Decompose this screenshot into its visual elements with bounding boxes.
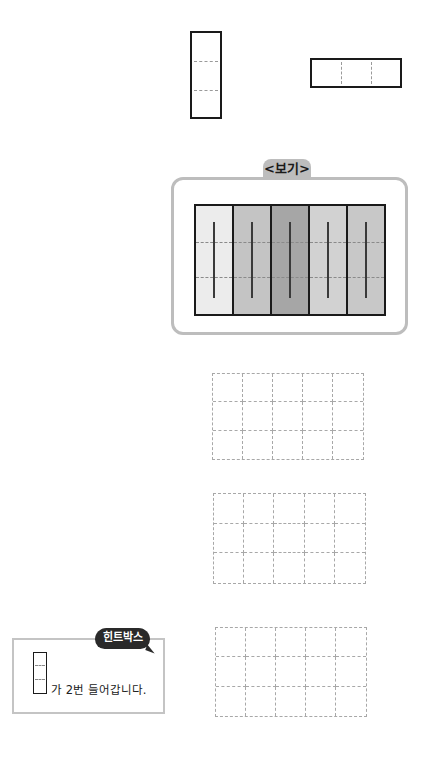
practice-grid-2[interactable] bbox=[213, 493, 366, 584]
vertical-line bbox=[365, 222, 367, 298]
hint-text: 가 2번 들어갑니다. bbox=[51, 681, 146, 697]
example-box-title: <보기> bbox=[263, 159, 311, 179]
strip-2 bbox=[234, 206, 272, 314]
hint-box: 가 2번 들어갑니다. bbox=[12, 638, 165, 714]
vertical-line bbox=[251, 222, 253, 298]
example-strips bbox=[194, 204, 386, 316]
vertical-piece-example bbox=[190, 31, 222, 119]
horizontal-piece-example bbox=[310, 58, 402, 88]
practice-grid-1[interactable] bbox=[212, 373, 364, 460]
strip-3 bbox=[272, 206, 310, 314]
strip-4 bbox=[310, 206, 348, 314]
cell-divider bbox=[341, 62, 342, 84]
hint-badge: 힌트박스 bbox=[95, 628, 150, 649]
cell-divider bbox=[371, 62, 372, 84]
strip-5 bbox=[348, 206, 384, 314]
practice-grid-3[interactable] bbox=[215, 627, 367, 717]
vertical-line bbox=[289, 222, 291, 298]
cell-divider bbox=[194, 61, 218, 62]
hint-piece-icon bbox=[33, 652, 47, 694]
example-box bbox=[171, 177, 408, 335]
strip-1 bbox=[196, 206, 234, 314]
vertical-line bbox=[213, 222, 215, 298]
vertical-line bbox=[327, 222, 329, 298]
cell-divider bbox=[194, 90, 218, 91]
